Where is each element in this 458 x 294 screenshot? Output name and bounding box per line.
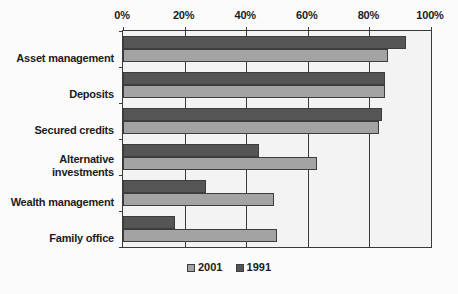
x-tick-label-60: 60% <box>296 9 317 21</box>
legend-label-2001: 2001 <box>198 261 222 273</box>
bar-1991-alternative-investments <box>123 144 259 157</box>
bar-2001-deposits <box>123 85 385 98</box>
legend-item-2001: 2001 <box>187 261 222 273</box>
bar-1991-asset-management <box>123 36 406 49</box>
category-label-family-office: Family office <box>49 232 114 245</box>
bar-2001-asset-management <box>123 49 388 62</box>
bar-chart: 0% 20% 40% 60% 80% 100% Asset management… <box>0 0 458 294</box>
bar-2001-secured-credits <box>123 121 379 134</box>
x-tick-label-20: 20% <box>173 9 194 21</box>
category-label-secured-credits: Secured credits <box>34 124 114 137</box>
chart-legend: 2001 1991 <box>0 261 458 273</box>
bar-1991-wealth-management <box>123 180 206 193</box>
y-axis-tick-6 <box>119 247 123 248</box>
category-axis-labels: Asset management Deposits Secured credit… <box>0 0 120 294</box>
bar-2001-family-office <box>123 229 277 242</box>
category-label-asset-management: Asset management <box>16 52 114 65</box>
category-label-deposits: Deposits <box>69 88 114 101</box>
plot-area <box>122 30 432 248</box>
bar-2001-wealth-management <box>123 193 274 206</box>
x-tick-label-100: 100% <box>416 9 443 21</box>
x-tick-label-80: 80% <box>358 9 379 21</box>
legend-label-1991: 1991 <box>247 261 271 273</box>
legend-swatch-2001-icon <box>187 264 195 272</box>
category-label-alternative-investments: Alternative investments <box>52 153 114 179</box>
category-label-wealth-management: Wealth management <box>11 196 114 209</box>
bar-1991-secured-credits <box>123 108 382 121</box>
bar-2001-alternative-investments <box>123 157 317 170</box>
x-tick-label-40: 40% <box>234 9 255 21</box>
legend-item-1991: 1991 <box>236 261 271 273</box>
bar-1991-deposits <box>123 72 385 85</box>
bars-layer <box>123 31 431 247</box>
bar-1991-family-office <box>123 216 175 229</box>
legend-swatch-1991-icon <box>236 264 244 272</box>
